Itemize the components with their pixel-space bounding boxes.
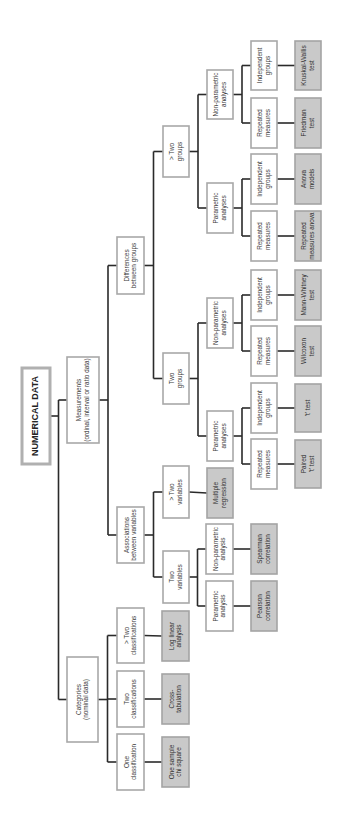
node-label-line: groups [263,56,271,76]
node-label-line: test [307,290,314,301]
node-label-line: analyses [219,82,227,107]
nodes: NUMERICAL DATAMeasurements(ordinal, inte… [22,41,321,790]
node-label-line: groups [175,142,183,162]
node-label-anova: Anovamodels [300,169,315,190]
node-label-line: analyses [219,195,227,220]
node-tg-nonparam: Non-parametricanalyses [207,298,233,348]
node-label-line: Wilcoxon [300,338,307,364]
node-label-line: Pearson [256,594,263,618]
connector-gt-two-variables-to-multiple-regression [189,492,207,493]
node-label-line: Parametric [212,420,219,452]
node-label-line: measures [263,222,270,250]
node-paired-t: Paired't' test [295,440,321,488]
node-label-root: NUMERICAL DATA [30,376,40,456]
node-gt-two-variables: > Twovariables [163,466,189,518]
node-root: NUMERICAL DATA [22,368,50,464]
node-label-line: analysis [219,537,227,560]
node-label-line: groups [263,169,271,189]
node-label-line: > Two [122,627,129,645]
node-tg-np-indep: Independentgroups [251,270,277,320]
node-label-tg-np-rep: Repeatedmeasures [256,337,271,365]
node-friedman: Friedmantest [295,98,321,148]
node-label-line: models [307,169,314,190]
node-label-line: correlation [263,591,270,621]
node-label-line: Friedman [300,109,307,136]
node-differences: Differencesbetween groups [117,237,144,294]
node-label-line: measures [263,450,270,478]
node-label-paired-t: Paired't' test [300,454,315,473]
node-gtg-p-indep: Independentgroups [251,154,277,204]
node-gtg-np-indep: Independentgroups [251,41,277,90]
node-label-gt-two-groups: > Twogroups [168,142,184,162]
node-label-line: analyses [219,423,227,448]
node-anova: Anovamodels [295,154,321,204]
node-label-categories: Categories(nominal data) [74,679,90,720]
node-label-line: Two [122,693,129,705]
node-label-line: classifications [130,616,137,655]
node-label-line: analysis [175,624,183,647]
node-label-log-linear: Log linearanalysis [167,621,183,650]
node-gtg-np-rep: Repeatedmeasures [251,98,277,148]
node-spearman: Spearmancorrelation [251,524,277,574]
node-tg-np-rep: Repeatedmeasures [251,326,277,376]
node-chi-square: One samplechi square [162,737,189,787]
node-label-pearson: Pearsoncorrelation [256,591,271,621]
node-label-line: measures [263,337,270,365]
node-mann-whitney: Mann-Whitneytest [295,270,321,320]
node-label-line: test [307,60,314,71]
node-label-line: variables [175,564,182,590]
node-gt-two-groups: > Twogroups [163,126,189,177]
node-associations: Associationsbetween variables [117,507,144,563]
node-label-line: test [307,118,314,129]
node-label-gtg-np-rep: Repeatedmeasures [256,109,271,137]
node-label-line: 't' test [307,456,314,473]
node-kruskal: Kruskal-Wallistest [295,41,321,90]
node-log-linear: Log linearanalysis [162,611,189,661]
node-label-line: variables [175,479,182,505]
node-label-line: analysis [219,594,227,617]
node-multiple-regression: Multipleregression [207,468,233,518]
node-t-test: 't' test [295,384,321,432]
node-label-line: > Two [168,143,175,161]
node-label-line: classifications [130,679,137,718]
node-label-line: test [307,346,314,357]
statistical-test-decision-tree: NUMERICAL DATAMeasurements(ordinal, inte… [0,0,347,840]
connector-gt-two-classifications-to-log-linear [144,636,162,637]
node-label-tv-param: Parametricanalysis [211,590,227,622]
node-label-chi-square: One samplechi square [167,744,183,779]
node-label-line: Differences [122,249,129,281]
node-label-multiple-regression: Multipleregression [212,478,228,508]
node-tv-param: Parametricanalysis [206,581,233,631]
node-gtg-p-rep: Repeatedmeasures [251,211,277,261]
node-label-line: groups [263,285,271,305]
node-label-line: classification [130,743,137,780]
node-label-line: analyses [219,310,227,335]
node-gtg-nonparam: Non-parametricanalyses [207,70,233,119]
node-label-gtg-p-rep: Repeatedmeasures [256,222,271,250]
node-label-tg-p-rep: Repeatedmeasures [256,450,271,478]
node-tg-p-rep: Repeatedmeasures [251,439,277,489]
node-label-line: Cross- [167,690,174,709]
node-two-variables: Twovariables [163,551,189,603]
node-label-spearman: Spearmancorrelation [256,534,271,564]
node-tg-param: Parametricanalyses [207,411,233,461]
node-label-line: correlation [263,534,270,564]
node-label-line: between groups [130,243,138,288]
node-label-line: Anova [300,169,307,188]
node-label-gtg-param: Parametricanalyses [212,192,228,224]
node-label-line: (ordinal, interval or ratio data) [82,358,90,441]
node-tv-nonparam: Non-parametricanalysis [206,524,233,574]
node-label-line: groups [175,369,183,389]
node-label-line: One [122,756,129,769]
node-one-classification: Oneclassification [117,734,144,790]
node-gtg-param: Parametricanalyses [207,183,233,233]
node-label-line: NUMERICAL DATA [30,376,40,456]
node-label-line: measures anova [307,212,314,260]
node-rm-anova: Repeatedmeasures anova [295,211,321,261]
node-label-line: measures [263,109,270,137]
node-label-t-test: 't' test [304,400,311,417]
node-label-line: Parametric [212,192,219,224]
node-gt-two-classifications: > Twoclassifications [117,608,144,663]
node-two-classifications: Twoclassifications [117,671,144,727]
node-label-tg-param: Parametricanalyses [212,420,228,452]
